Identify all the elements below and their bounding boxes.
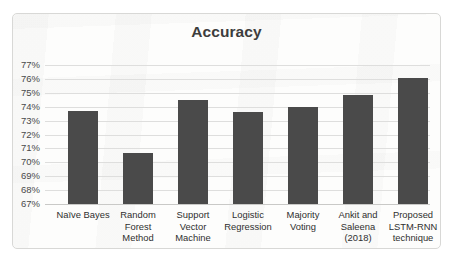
- bar[interactable]: [123, 153, 153, 204]
- gridline: 75%: [45, 93, 430, 94]
- y-axis-tick-label: 70%: [21, 158, 40, 168]
- bar[interactable]: [68, 111, 98, 204]
- gridline: 76%: [45, 79, 430, 80]
- y-axis-tick-label: 71%: [21, 144, 40, 154]
- y-axis-tick-label: 73%: [21, 116, 40, 126]
- y-axis-tick-label: 72%: [21, 130, 40, 140]
- y-axis-tick-label: 68%: [21, 185, 40, 195]
- y-axis-tick-label: 76%: [21, 74, 40, 84]
- gridline: 77%: [45, 65, 430, 66]
- bar[interactable]: [343, 95, 373, 204]
- y-axis-tick-label: 74%: [21, 102, 40, 112]
- bar[interactable]: [233, 112, 263, 204]
- chart-title: Accuracy: [13, 23, 440, 41]
- y-axis-tick-label: 77%: [21, 60, 40, 70]
- y-axis-tick-label: 69%: [21, 171, 40, 181]
- chart-card: Accuracy 77% 76% 75% 74% 73% 72% 71% 70%…: [12, 13, 441, 249]
- bar[interactable]: [288, 107, 318, 204]
- plot-area: 77% 76% 75% 74% 73% 72% 71% 70% 69% 68%: [45, 65, 430, 204]
- bar[interactable]: [398, 78, 428, 204]
- y-axis-tick-label: 75%: [21, 88, 40, 98]
- y-axis-tick-label: 67%: [21, 199, 40, 209]
- bar[interactable]: [178, 100, 208, 204]
- x-axis-baseline: 67%: [45, 204, 430, 205]
- x-axis-category-label: ProposedLSTM-RNNtechnique: [381, 209, 445, 244]
